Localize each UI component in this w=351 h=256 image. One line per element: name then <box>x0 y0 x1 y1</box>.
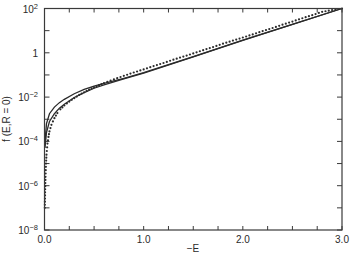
data-point <box>49 127 51 129</box>
data-point <box>176 58 178 60</box>
data-point <box>45 160 47 162</box>
data-point <box>133 71 135 73</box>
chart: −E f (E,R = 0) 0.01.02.03.0102110−210−41… <box>0 0 351 256</box>
data-point <box>215 45 217 47</box>
data-point <box>321 11 323 13</box>
data-point <box>149 66 151 68</box>
data-point <box>126 74 128 76</box>
data-point <box>295 19 297 21</box>
data-point <box>91 87 93 89</box>
data-point <box>46 150 48 152</box>
data-point <box>222 43 224 45</box>
data-point <box>238 37 240 39</box>
x-axis-label: −E <box>187 243 200 254</box>
data-point <box>258 31 260 33</box>
data-point <box>291 20 293 22</box>
data-point <box>225 42 227 44</box>
data-point <box>278 25 280 27</box>
data-point <box>331 9 333 11</box>
series-upper-solid <box>45 9 342 142</box>
data-point <box>229 41 231 43</box>
data-point <box>93 86 95 88</box>
data-point <box>152 65 154 67</box>
data-point <box>143 68 145 70</box>
x-tick-label: 1.0 <box>137 234 151 245</box>
data-point <box>195 51 197 53</box>
data-point <box>106 81 108 83</box>
data-point <box>61 106 63 108</box>
data-point <box>182 55 184 57</box>
data-point <box>113 78 115 80</box>
data-point <box>328 10 330 12</box>
data-point <box>76 95 78 97</box>
data-point <box>324 10 326 12</box>
data-point <box>202 49 204 51</box>
data-point <box>68 100 70 102</box>
data-point <box>156 64 158 66</box>
data-point <box>308 15 310 17</box>
y-tick-label: 1 <box>32 48 38 59</box>
data-point <box>162 62 164 64</box>
data-point <box>46 143 48 145</box>
data-point <box>83 91 85 93</box>
data-point <box>186 54 188 56</box>
x-tick-label: 0.0 <box>38 234 52 245</box>
curves-layer <box>44 7 343 209</box>
data-point <box>192 52 194 54</box>
x-tick-label: 3.0 <box>335 234 349 245</box>
data-point <box>212 46 214 48</box>
data-point <box>146 67 148 69</box>
data-point <box>47 136 49 138</box>
data-point <box>47 139 49 141</box>
data-point <box>50 124 52 126</box>
data-point <box>285 23 287 25</box>
data-point <box>271 27 273 29</box>
data-point <box>275 26 277 28</box>
data-point <box>98 84 100 86</box>
data-point <box>281 24 283 26</box>
data-point <box>55 115 57 117</box>
data-point <box>88 88 90 90</box>
data-point <box>305 16 307 18</box>
data-point <box>166 61 168 63</box>
data-point <box>136 70 138 72</box>
y-tick-label: 10−6 <box>18 179 38 192</box>
data-point <box>232 40 234 42</box>
data-point <box>169 60 171 62</box>
ticks-layer <box>45 9 343 231</box>
series-dotted <box>44 7 343 209</box>
data-point <box>48 133 50 135</box>
data-point <box>53 117 55 119</box>
y-tick-label: 10−2 <box>18 90 38 103</box>
data-point <box>262 30 264 32</box>
x-tick-label: 2.0 <box>236 234 250 245</box>
data-point <box>116 77 118 79</box>
data-point <box>73 97 75 99</box>
data-point <box>95 85 97 87</box>
data-point <box>205 48 207 50</box>
data-point <box>110 80 112 82</box>
data-point <box>311 14 313 16</box>
data-point <box>46 146 48 148</box>
data-point <box>45 157 47 159</box>
data-point <box>48 130 50 132</box>
data-point <box>119 76 121 78</box>
data-point <box>45 162 47 164</box>
plot-frame <box>45 9 343 231</box>
data-point <box>159 63 161 65</box>
y-axis-label: f (E,R = 0) <box>1 96 12 142</box>
data-point <box>71 99 73 101</box>
data-point <box>78 94 80 96</box>
data-point <box>56 112 58 114</box>
data-point <box>248 34 250 36</box>
data-point <box>179 57 181 59</box>
data-point <box>129 73 131 75</box>
data-point <box>314 13 316 15</box>
data-point <box>245 35 247 37</box>
data-point <box>288 22 290 24</box>
series-middle-solid <box>45 9 342 149</box>
y-tick-label: 10−4 <box>18 134 38 147</box>
data-point <box>123 75 125 77</box>
data-point <box>103 82 105 84</box>
data-point <box>59 108 61 110</box>
